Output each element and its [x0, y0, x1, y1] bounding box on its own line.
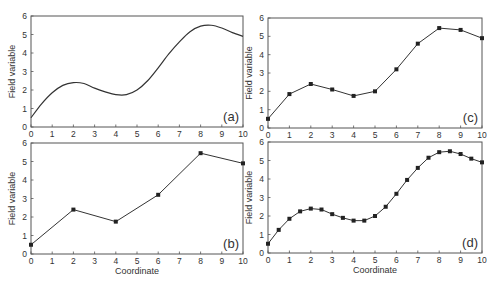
data-marker: [416, 42, 420, 46]
panel-label: (a): [223, 109, 239, 124]
x-tick-label: 1: [287, 255, 292, 265]
data-marker: [437, 150, 441, 154]
y-tick-label: 3: [259, 193, 264, 203]
x-tick-label: 5: [373, 255, 378, 265]
y-tick-label: 6: [259, 137, 264, 147]
data-marker: [199, 151, 203, 155]
y-tick-label: 4: [22, 175, 27, 185]
data-marker: [469, 157, 473, 161]
x-tick-label: 3: [92, 256, 97, 266]
series-line: [31, 153, 243, 245]
x-tick-label: 8: [198, 256, 203, 266]
x-tick-label: 2: [71, 129, 76, 139]
figure-canvas: 0123456789100123456Field variable(a)0123…: [0, 0, 497, 282]
x-tick-label: 1: [287, 130, 292, 140]
x-tick-label: 3: [330, 130, 335, 140]
y-tick-label: 5: [22, 30, 27, 40]
y-axis-label: Field variable: [7, 172, 17, 226]
x-tick-label: 0: [266, 130, 271, 140]
x-tick-label: 9: [458, 130, 463, 140]
y-tick-label: 4: [259, 50, 264, 60]
data-marker: [330, 212, 334, 216]
x-tick-label: 6: [156, 129, 161, 139]
y-tick-label: 5: [259, 31, 264, 41]
y-tick-label: 2: [259, 86, 264, 96]
x-tick-label: 3: [330, 255, 335, 265]
data-marker: [459, 28, 463, 32]
data-marker: [480, 160, 484, 164]
x-tick-label: 4: [113, 256, 118, 266]
data-marker: [341, 216, 345, 220]
data-marker: [362, 219, 366, 223]
data-marker: [330, 88, 334, 92]
x-tick-label: 7: [177, 256, 182, 266]
x-tick-label: 0: [29, 129, 34, 139]
data-marker: [352, 94, 356, 98]
data-marker: [287, 217, 291, 221]
y-axis-label: Field variable: [244, 46, 254, 100]
panel-c: 0123456789100123456Field variable(c): [244, 13, 487, 140]
data-marker: [459, 152, 463, 156]
data-marker: [241, 161, 245, 165]
data-marker: [427, 156, 431, 160]
panel-label: (b): [223, 236, 239, 251]
data-marker: [156, 193, 160, 197]
plot-frame: [31, 16, 243, 127]
data-marker: [298, 209, 302, 213]
x-tick-label: 5: [373, 130, 378, 140]
data-marker: [352, 219, 356, 223]
x-tick-label: 7: [415, 130, 420, 140]
y-tick-label: 0: [22, 122, 27, 132]
y-axis-label: Field variable: [244, 171, 254, 225]
y-tick-label: 6: [22, 11, 27, 21]
y-tick-label: 1: [259, 230, 264, 240]
y-tick-label: 0: [259, 248, 264, 258]
data-marker: [373, 214, 377, 218]
y-tick-label: 1: [22, 231, 27, 241]
data-marker: [266, 117, 270, 121]
x-tick-label: 10: [238, 129, 248, 139]
data-marker: [266, 242, 270, 246]
y-tick-label: 0: [259, 123, 264, 133]
x-tick-label: 2: [308, 255, 313, 265]
x-tick-label: 6: [394, 255, 399, 265]
x-axis-label: Coordinate: [115, 266, 159, 276]
x-tick-label: 4: [113, 129, 118, 139]
x-tick-label: 7: [177, 129, 182, 139]
data-marker: [416, 166, 420, 170]
data-marker: [287, 92, 291, 96]
x-tick-label: 0: [29, 256, 34, 266]
x-tick-label: 8: [437, 130, 442, 140]
y-tick-label: 5: [22, 157, 27, 167]
x-tick-label: 1: [50, 256, 55, 266]
data-marker: [437, 26, 441, 30]
data-marker: [71, 208, 75, 212]
panel-label: (d): [462, 235, 478, 250]
x-tick-label: 5: [135, 256, 140, 266]
plot-frame: [31, 143, 243, 254]
plot-frame: [268, 142, 482, 253]
x-tick-label: 4: [351, 255, 356, 265]
x-tick-label: 8: [198, 129, 203, 139]
data-marker: [405, 178, 409, 182]
data-marker: [29, 243, 33, 247]
data-marker: [320, 208, 324, 212]
data-marker: [309, 82, 313, 86]
x-tick-label: 10: [477, 255, 487, 265]
x-tick-label: 3: [92, 129, 97, 139]
panel-d: 0123456789100123456Field variableCoordin…: [244, 137, 487, 275]
x-tick-label: 9: [219, 256, 224, 266]
series-line: [268, 28, 482, 119]
y-tick-label: 1: [259, 105, 264, 115]
x-tick-label: 9: [458, 255, 463, 265]
data-marker: [394, 192, 398, 196]
y-tick-label: 6: [259, 13, 264, 23]
y-tick-label: 3: [22, 67, 27, 77]
x-tick-label: 5: [135, 129, 140, 139]
data-marker: [394, 67, 398, 71]
x-tick-label: 9: [219, 129, 224, 139]
y-tick-label: 0: [22, 249, 27, 259]
x-tick-label: 10: [477, 130, 487, 140]
data-marker: [480, 36, 484, 40]
y-tick-label: 2: [22, 85, 27, 95]
